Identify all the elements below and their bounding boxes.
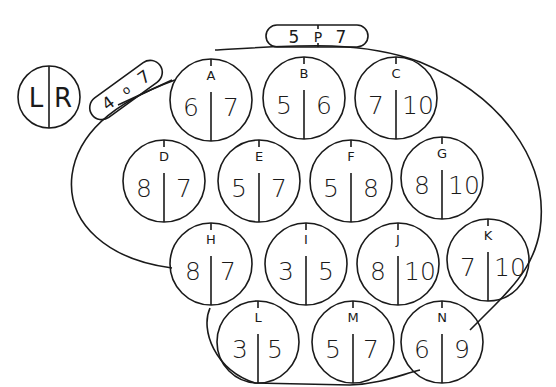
right-value: 6: [316, 91, 332, 120]
circle-label: I: [304, 232, 308, 247]
circle-h: H 8 7: [170, 223, 252, 305]
right-value: 7: [220, 257, 236, 286]
circle-label: H: [206, 232, 216, 247]
right-value: 10: [404, 257, 436, 286]
circle-label: M: [347, 310, 358, 325]
circle-label: E: [255, 149, 263, 164]
pill-top-right-value: 7: [336, 27, 347, 47]
legend-right-label: R: [54, 83, 72, 113]
right-value: 10: [448, 171, 480, 200]
right-value: 7: [223, 93, 239, 122]
pill-left-center-mark: o: [119, 82, 133, 98]
left-value: 7: [368, 91, 384, 120]
circle-i: I 3 5: [265, 223, 347, 305]
pill-top-center-label: P: [314, 29, 322, 45]
left-value: 6: [414, 335, 430, 364]
legend-left-label: L: [29, 83, 44, 113]
circle-label: B: [300, 66, 309, 81]
right-value: 5: [318, 257, 334, 286]
circle-label: G: [437, 146, 447, 161]
circle-n: N 6 9: [401, 301, 483, 383]
left-value: 8: [414, 171, 430, 200]
circle-a: A 6 7: [170, 59, 252, 141]
pill-top: 5 P 7: [266, 25, 368, 47]
left-value: 7: [460, 253, 476, 282]
circle-label: C: [391, 66, 400, 81]
circle-m: M 5 7: [312, 301, 394, 383]
circle-b: B 5 6: [263, 57, 345, 139]
right-value: 10: [494, 253, 526, 282]
left-value: 5: [325, 335, 341, 364]
right-value: 7: [363, 335, 379, 364]
circle-label: A: [207, 68, 216, 83]
circle-g: G 8 10: [401, 137, 483, 219]
right-value: 10: [402, 91, 434, 120]
left-value: 6: [183, 93, 199, 122]
circle-f: F 5 8: [310, 140, 392, 222]
circle-label: L: [254, 310, 262, 325]
circle-label: N: [437, 310, 447, 325]
left-value: 5: [276, 91, 292, 120]
left-value: 3: [278, 257, 294, 286]
right-value: 5: [267, 335, 283, 364]
right-value: 7: [271, 174, 287, 203]
circle-j: J 8 10: [357, 223, 439, 305]
left-value: 8: [370, 257, 386, 286]
left-value: 5: [323, 174, 339, 203]
right-value: 9: [454, 335, 470, 364]
right-value: 7: [176, 174, 192, 203]
left-value: 8: [185, 257, 201, 286]
circle-l: L 3 5: [217, 301, 299, 383]
left-value: 8: [136, 174, 152, 203]
circle-k: K 7 10: [447, 219, 529, 301]
circle-e: E 5 7: [218, 140, 300, 222]
pill-left-right-value: 7: [134, 66, 155, 89]
circle-label: F: [347, 149, 354, 164]
circle-c: C 7 10: [355, 57, 437, 139]
circle-label: D: [159, 149, 169, 164]
circle-label: K: [484, 228, 493, 243]
pill-top-left-value: 5: [289, 27, 300, 47]
diagram-canvas: L R 4 o 7 5 P 7 A 6 7 B 5 6 C 7 10 D 8: [0, 0, 556, 387]
right-value: 8: [363, 174, 379, 203]
circle-label: J: [395, 232, 400, 247]
left-value: 5: [231, 174, 247, 203]
pill-left: 4 o 7: [85, 56, 167, 125]
left-value: 3: [232, 335, 248, 364]
legend-lr-circle: L R: [18, 66, 80, 128]
circle-d: D 8 7: [123, 140, 205, 222]
